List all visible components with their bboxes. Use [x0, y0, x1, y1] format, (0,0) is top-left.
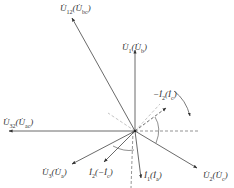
phasor-U12 — [72, 18, 135, 131]
phasor-I2 — [104, 131, 135, 162]
label-U1: U̇1(U̇b) — [122, 43, 147, 54]
reference-diagonal-dashed — [108, 113, 135, 131]
reference-vertical-dashed — [131, 131, 133, 188]
phasor-diagram — [0, 0, 234, 188]
phasor-I1 — [135, 131, 141, 178]
label-U12: U̇12(U̇bc) — [60, 4, 91, 15]
label-U32: U̇32(U̇ac) — [3, 118, 33, 129]
phasor-minus-I2 — [135, 108, 166, 131]
label-minus-I2: −İ2(İc) — [153, 90, 177, 101]
origin-point — [134, 130, 137, 133]
reference-diagonal-dashed-2 — [135, 104, 160, 131]
phasor-U2 — [135, 131, 197, 168]
label-U3: U̇3(U̇a) — [42, 168, 67, 179]
phasor-U3 — [72, 131, 135, 164]
label-U2: U̇2(U̇c) — [203, 171, 228, 182]
angle-arc-right — [155, 117, 159, 143]
label-I2: İ2(−İc) — [89, 168, 113, 179]
label-I1: İ1(İa) — [144, 171, 162, 182]
